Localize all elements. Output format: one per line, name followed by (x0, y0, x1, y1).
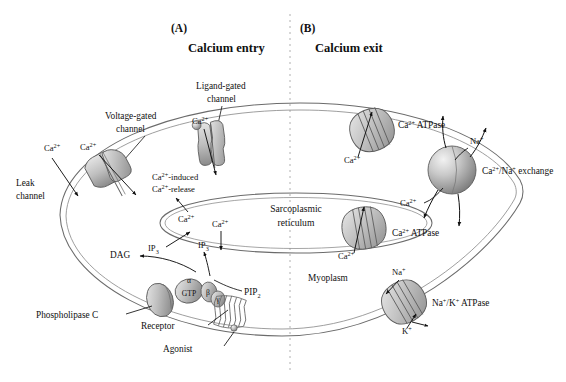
agonist-molecule-icon (231, 325, 237, 331)
ip3-production-arrow (204, 252, 210, 276)
ca-na-exchanger[interactable] (428, 146, 476, 194)
pip2-leader (214, 280, 242, 291)
pip2-label: PIP2 (244, 287, 261, 299)
exchange-arrow-down-left (424, 190, 438, 218)
ion-label-ca-atpase-sr: Ca2+ (338, 250, 355, 261)
cicr-line1: Ca2+-induced (152, 171, 199, 182)
ion-label-na-pump: Na+ (392, 266, 406, 277)
panel-b-letter: (B) (300, 22, 316, 35)
sr-label-line2: reticulum (278, 217, 315, 228)
sr-label-line1: Sarcoplasmic (270, 203, 322, 214)
voltage-gated-channel[interactable] (82, 144, 141, 206)
ca-atpase-sarcoplasmic-reticulum[interactable] (339, 203, 390, 252)
agonist-leader (224, 332, 234, 346)
voltage-gated-label-line1: Voltage-gated (105, 111, 157, 121)
k-pump-label: K+ (402, 325, 412, 336)
ion-label-k-pump: K+ (402, 325, 412, 336)
ca-atpase-plasma-membrane[interactable] (344, 102, 401, 157)
ca-atpase-sr-ion: Ca2+ (338, 250, 355, 261)
phospholipase-c[interactable] (142, 280, 177, 320)
receptor-label: Receptor (141, 321, 175, 331)
ligand-gated-label-line1: Ligand-gated (196, 81, 246, 91)
dag-label: DAG (110, 250, 130, 260)
figure-canvas: (A) Calcium entry (B) Calcium exit Sarco… (0, 0, 566, 382)
na-k-exchange-arrow (412, 322, 428, 326)
ca-voltage-label: Ca2+ (80, 141, 97, 152)
ca-na-exchange-text: Ca2+/Na+ exchange (482, 165, 553, 176)
dag-arrow (140, 256, 196, 272)
g-protein-beta-gamma-subunit[interactable]: β γ (199, 281, 225, 307)
ca-sr-out-label: Ca2+ (212, 218, 229, 229)
ion-label-ca-exchange: Ca2+ (400, 197, 417, 208)
ca-atpase-plasma-label: Ca2+ ATPase (398, 119, 445, 130)
ligand-gated-label-line2: channel (207, 94, 236, 104)
ip3-text: IP3 (148, 243, 159, 255)
leak-channel-label-line2: channel (16, 191, 45, 201)
ca-atpase-sr-text: Ca2+ ATPase (392, 227, 439, 238)
ca-sr-release-label: Ca2+ (178, 213, 195, 224)
pip2-text: PIP2 (244, 287, 261, 299)
ca-exchange-label: Ca2+ (400, 197, 417, 208)
ca-atpase-sr-label: Ca2+ ATPase (392, 227, 439, 238)
calcium-transport-diagram: (A) Calcium entry (B) Calcium exit Sarco… (0, 0, 566, 382)
voltage-gated-label-line2: channel (116, 124, 145, 134)
phospholipase-c-leader (126, 306, 152, 314)
myoplasm-label: Myoplasm (308, 273, 349, 283)
agonist-label: Agonist (163, 344, 193, 354)
ion-label-ca-voltage: Ca2+ (80, 141, 97, 152)
phospholipase-c-label: Phospholipase C (36, 310, 98, 320)
panel-b-title: Calcium exit (315, 41, 384, 55)
g-alpha-label: α (187, 276, 191, 285)
na-k-atpase-label: Na+/K+ ATPase (432, 297, 489, 308)
panel-a-title: Calcium entry (188, 41, 265, 55)
gtp-label: GTP (182, 289, 196, 298)
panel-a-letter: (A) (171, 22, 187, 35)
ion-label-ca-leak: Ca2+ (44, 142, 61, 153)
ion-label-ca-sr-out: Ca2+ (212, 218, 229, 229)
na-k-atpase-text: Na+/K+ ATPase (432, 297, 489, 308)
exchange-arrow-down-right (458, 194, 460, 226)
voltage-gated-leader (124, 136, 145, 160)
ca-leak-label: Ca2+ (44, 142, 61, 153)
ca-na-exchange-label: Ca2+/Na+ exchange (482, 165, 553, 176)
cicr-label: Ca2+-induced Ca2+-release (152, 171, 199, 194)
leak-channel-label-line1: Leak (16, 178, 35, 188)
cicr-line2: Ca2+-release (152, 183, 195, 194)
ip3-label: IP3 (148, 243, 159, 255)
ca-atpase-plasma-text: Ca2+ ATPase (398, 119, 445, 130)
na-k-atpase[interactable] (374, 273, 433, 331)
g-beta-label: β (206, 288, 210, 297)
ion-label-ca-sr-in: Ca2+ (178, 213, 195, 224)
na-pump-label: Na+ (392, 266, 406, 277)
